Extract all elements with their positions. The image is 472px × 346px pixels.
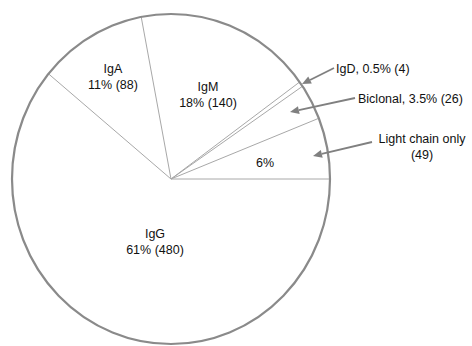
label-iga: IgA 11% (88) [78,61,148,93]
label-iga-value: 11% (88) [78,77,148,93]
label-igg: IgG 61% (480) [115,226,195,258]
pie-chart [0,0,472,346]
label-light-chain-percent: 6% [250,155,280,171]
pie-slices [12,14,330,344]
label-iga-name: IgA [78,61,148,77]
arrow-igd [302,68,334,84]
label-igg-value: 61% (480) [115,242,195,258]
callout-light-chain-count: (49) [376,147,468,163]
label-igm-value: 18% (140) [168,95,248,111]
label-igm-name: IgM [168,79,248,95]
label-igm: IgM 18% (140) [168,79,248,111]
label-light-chain-pct: 6% [250,155,280,171]
label-igg-name: IgG [115,226,195,242]
callout-light-chain-text: Light chain only [376,131,468,147]
callout-light-chain: Light chain only (49) [376,131,468,163]
callout-biclonal-text: Biclonal, 3.5% (26) [358,92,463,106]
callout-igd: IgD, 0.5% (4) [336,61,410,77]
callout-igd-text: IgD, 0.5% (4) [336,62,410,76]
callout-biclonal: Biclonal, 3.5% (26) [358,91,463,107]
